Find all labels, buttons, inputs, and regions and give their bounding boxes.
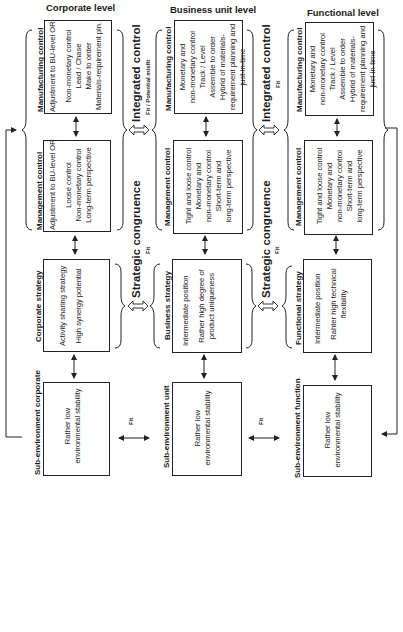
strategic-congruence-fit-label-1: Fit: [145, 247, 151, 254]
business-manufacturing-control-label: Manufacturing control: [164, 27, 173, 111]
functional-strategy-text: Intermediate position Rahter high techni…: [313, 264, 349, 344]
functional-manufacturing-control-label: Manufacturing control: [295, 28, 304, 112]
corporate-manufacturing-control-text: Adjustment to BU-level OR Non-monetary c…: [48, 20, 104, 112]
functional-manufacturing-control-text: Monetary and non-monetary control Track …: [308, 26, 378, 112]
sub-environment-unit-text: Rather low environmental stability: [193, 388, 213, 468]
business-strategy-text: Intermediate position Rather high degree…: [181, 266, 217, 346]
corporate-strategy-text: Activity sharing strategy High synergy p…: [58, 266, 84, 346]
integrated-control-label-2: Integrated control: [260, 24, 272, 122]
strategic-congruence-fit-label-2: Fit: [274, 247, 280, 254]
strategic-congruence-label-1: Strategic congruence: [130, 180, 142, 298]
functional-management-control-label: Management control: [294, 148, 303, 226]
strategic-congruence-label-2: Strategic congruence: [260, 180, 272, 298]
integrated-control-label-1: Integrated control: [130, 24, 142, 122]
corporate-management-control-text: Adjustment to BU-level OR Loose control …: [48, 140, 94, 230]
env-fit-label-2: Fit: [258, 418, 264, 425]
business-strategy-label: Business strategy: [163, 271, 172, 340]
business-manufacturing-control-text: Monetary and non-monetary control Track …: [178, 24, 248, 110]
business-management-control-text: Tight and loose control Monetary and non…: [184, 146, 234, 226]
sub-environment-unit-label: Sub-environment unit: [162, 385, 171, 468]
business-management-control-label: Management control: [163, 148, 172, 226]
sub-environment-corporate-label: Sub-environment corporate: [33, 370, 42, 475]
corporate-management-control-label: Management control: [35, 152, 44, 230]
corporate-strategy-label: Corporate strategy: [34, 270, 43, 342]
functional-strategy-label: Functional strategy: [294, 271, 303, 345]
sub-environment-corporate-text: Rather low environmental stability: [63, 386, 83, 466]
integrated-control-fit-label-1: Fit / Potential misfit: [145, 60, 151, 115]
sub-environment-function-label: Sub-environment function: [293, 378, 302, 478]
integrated-control-fit-label-2: Fit: [275, 81, 281, 88]
corporate-manufacturing-control-label: Manufacturing control: [36, 28, 45, 112]
sub-environment-function-text: Rather low environmental stability: [323, 390, 343, 470]
functional-management-control-text: Tight and loose control Monetary and non…: [315, 146, 365, 226]
env-fit-label-1: Fit: [128, 418, 134, 425]
